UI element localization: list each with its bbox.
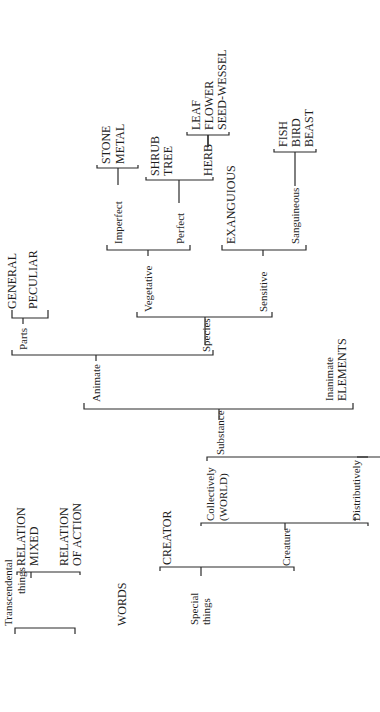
label-relation-mixed-1: RELATION bbox=[14, 507, 28, 566]
label-creator: CREATOR bbox=[160, 511, 174, 565]
bracket-words bbox=[15, 628, 75, 634]
bracket-animate bbox=[12, 350, 213, 361]
bracket-imperfect bbox=[97, 165, 138, 185]
label-relation-action-2: OF ACTION bbox=[70, 503, 84, 566]
label-flower: FLOWER bbox=[202, 81, 216, 130]
label-perfect: Perfect bbox=[174, 213, 186, 244]
label-distributively: Distributively bbox=[350, 459, 362, 521]
bracket-sanguineous bbox=[274, 149, 316, 186]
label-relation-mixed-2: MIXED bbox=[27, 526, 41, 566]
label-beast: BEAST bbox=[302, 108, 316, 147]
bracket-special-things bbox=[160, 567, 294, 576]
label-fish: FISH bbox=[276, 121, 290, 147]
bracket-parts bbox=[12, 310, 48, 324]
label-peculiar: PECULIAR bbox=[26, 250, 40, 309]
bracket-vegetative bbox=[107, 245, 190, 256]
label-special: Special bbox=[188, 593, 200, 625]
label-metal: METAL bbox=[113, 124, 127, 164]
label-special-things: things bbox=[200, 598, 212, 625]
label-leaf: LEAF bbox=[189, 100, 203, 130]
labels: Transcendental things RELATION MIXED REL… bbox=[2, 49, 362, 626]
label-transcendental: Transcendental bbox=[2, 559, 14, 626]
label-tree: TREE bbox=[161, 146, 175, 176]
label-animate: Animate bbox=[90, 364, 102, 402]
label-relation-action-1: RELATION bbox=[57, 507, 71, 566]
label-exanguious: EXANGUIOUS bbox=[224, 165, 238, 244]
label-words: WORDS bbox=[115, 583, 129, 626]
label-bird: BIRD bbox=[289, 118, 303, 147]
label-seed-wessel: SEED-WESSEL bbox=[215, 49, 229, 130]
label-shrub: SHRUB bbox=[148, 136, 162, 176]
label-species: Species bbox=[200, 318, 212, 352]
label-substance: Substance bbox=[214, 410, 226, 455]
label-inanimate: Inanimate bbox=[323, 357, 335, 401]
label-elements: ELEMENTS bbox=[335, 338, 349, 401]
label-imperfect: Imperfect bbox=[112, 201, 124, 244]
label-sanguineous: Sanguineous bbox=[289, 188, 301, 244]
label-collectively: Collectively bbox=[204, 467, 216, 521]
label-general: GENERAL bbox=[5, 253, 19, 309]
label-herb: HERB bbox=[201, 144, 215, 176]
label-parts: Parts bbox=[17, 328, 29, 350]
bracket-sensitive bbox=[222, 245, 306, 256]
label-world: (WORLD) bbox=[217, 473, 230, 521]
label-transcendental-things: things bbox=[15, 567, 27, 594]
label-sensitive: Sensitive bbox=[257, 272, 269, 312]
bracket-perfect bbox=[146, 177, 213, 203]
taxonomy-diagram: Transcendental things RELATION MIXED REL… bbox=[0, 0, 380, 712]
label-creature: Creature bbox=[280, 528, 292, 566]
label-stone: STONE bbox=[99, 126, 113, 164]
label-vegetative: Vegetative bbox=[142, 265, 154, 312]
